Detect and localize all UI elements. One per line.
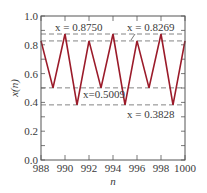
x-axis-label: n	[110, 175, 116, 187]
y-tick-label: 0.2	[24, 125, 38, 137]
y-tick-labels: 0.00.20.40.60.81.0	[24, 10, 38, 166]
annotation-0-3828: x = 0.3828	[127, 108, 175, 120]
x-tick-label: 996	[129, 162, 146, 174]
x-tick-label: 988	[33, 162, 50, 174]
x-tick-labels: 9889909929949969981000	[33, 162, 197, 174]
y-tick-label: 0.8	[24, 39, 38, 51]
annotation-pointer	[131, 34, 135, 40]
chart: 0.00.20.40.60.81.0 988990992994996998100…	[0, 0, 207, 193]
x-tick-label: 990	[57, 162, 74, 174]
y-tick-label: 0.6	[24, 68, 38, 80]
x-tick-label: 1000	[174, 162, 197, 174]
x-tick-label: 992	[81, 162, 98, 174]
annotation-0-8750: x = 0.8750	[55, 21, 103, 33]
annotation-0-5009: x=0.5009	[83, 88, 125, 100]
y-axis-label: x(n)	[8, 79, 21, 98]
x-tick-label: 994	[105, 162, 122, 174]
y-tick-label: 0.4	[24, 96, 38, 108]
y-tick-label: 1.0	[24, 10, 38, 22]
x-tick-label: 998	[153, 162, 170, 174]
annotation-0-8269: x = 0.8269	[127, 21, 175, 33]
